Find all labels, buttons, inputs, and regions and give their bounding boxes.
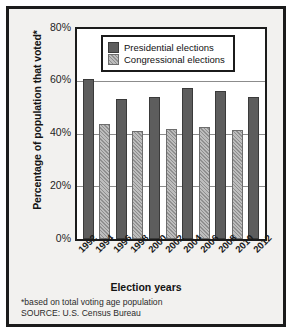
footnote-text: *based on total voting age population <box>21 297 162 308</box>
y-tick-20: 20% <box>35 179 71 191</box>
bar-congressional-2010 <box>232 130 243 239</box>
source-text: SOURCE: U.S. Census Bureau <box>21 308 162 319</box>
bar-congressional-1994 <box>99 124 110 240</box>
chart-figure: Percentage of population that voted* 80%… <box>6 6 286 327</box>
x-axis-tick-labels: 1992199419961998200020022004200620082010… <box>75 243 267 277</box>
bar-presidential-2004 <box>182 88 193 239</box>
legend-label-presidential: Presidential elections <box>124 42 214 53</box>
bar-column-2012 <box>245 29 262 239</box>
chart-notes: *based on total voting age population SO… <box>21 297 162 319</box>
legend-swatch-congressional-icon <box>108 54 119 65</box>
bar-congressional-1998 <box>132 131 143 239</box>
y-tick-40: 40% <box>35 126 71 138</box>
legend-item-presidential: Presidential elections <box>108 42 225 53</box>
bar-presidential-2012 <box>248 97 259 239</box>
bar-congressional-2002 <box>166 129 177 239</box>
y-tick-60: 60% <box>35 73 71 85</box>
bar-column-1992 <box>80 29 97 239</box>
legend-swatch-presidential-icon <box>108 42 119 53</box>
y-tick-0: 0% <box>35 232 71 244</box>
plot-area: Presidential elections Congressional ele… <box>75 27 267 241</box>
bar-presidential-1996 <box>116 99 127 239</box>
x-axis-title: Election years <box>9 281 283 293</box>
chart-legend: Presidential elections Congressional ele… <box>101 35 235 72</box>
bar-congressional-2006 <box>199 127 210 239</box>
plot-inner: Presidential elections Congressional ele… <box>77 29 265 239</box>
bar-presidential-1992 <box>83 79 94 239</box>
legend-label-congressional: Congressional elections <box>124 54 225 65</box>
y-tick-80: 80% <box>35 21 71 33</box>
bar-presidential-2000 <box>149 97 160 239</box>
bar-presidential-2008 <box>215 91 226 239</box>
legend-item-congressional: Congressional elections <box>108 54 225 65</box>
